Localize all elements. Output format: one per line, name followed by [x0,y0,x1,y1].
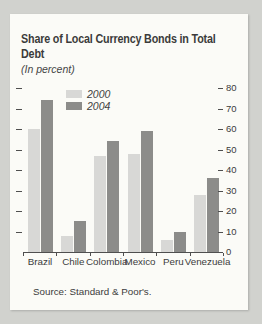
bar-peru-2000 [161,240,173,252]
bar-colombia-2000 [94,156,106,252]
y-axis-label: 80 [226,83,237,93]
y-axis-tick-left [16,170,22,171]
bar-venezuela-2004 [207,178,219,252]
page-background: { "page": { "background_color": "#d1d2ce… [0,0,262,324]
bar-mexico-2000 [128,154,140,252]
y-axis-tick-left [16,191,22,192]
y-axis-tick-left [16,150,22,151]
y-axis-tick-left [16,129,22,130]
chart-card: Share of Local Currency Bonds in Total D… [10,14,248,310]
x-axis-label: Venezuela [185,256,229,267]
y-axis-label: 40 [226,165,237,175]
y-axis-label: 10 [226,227,237,237]
chart-title: Share of Local Currency Bonds in Total D… [21,32,247,61]
plot-area: 01020304050607080BrazilChileColombiaMexi… [23,88,223,253]
source-note: Source: Standard & Poor's. [33,286,151,297]
bar-mexico-2004 [141,131,153,252]
y-axis-label: 70 [226,104,237,114]
bar-brazil-2004 [41,100,53,252]
y-axis-tick-right [218,211,223,212]
y-axis-tick-right [218,88,223,89]
y-axis-label: 60 [226,124,237,134]
bar-venezuela-2000 [194,195,206,252]
bar-colombia-2004 [107,141,119,252]
y-axis-tick-left [16,109,22,110]
bar-peru-2004 [174,232,186,253]
y-axis-tick-left [16,88,22,89]
bar-chile-2004 [74,221,86,252]
y-axis-label: 30 [226,186,237,196]
chart-title-line2: Debt [21,47,216,62]
y-axis-label: 20 [226,206,237,216]
bar-brazil-2000 [28,129,40,252]
chart-subtitle: (In percent) [21,63,75,75]
y-axis-label: 50 [226,145,237,155]
y-axis-tick-left [16,232,22,233]
bar-chile-2000 [61,236,73,252]
y-axis-tick-right [218,191,223,192]
y-axis-tick-right [218,109,223,110]
y-axis-tick-right [218,170,223,171]
y-axis-tick-right [218,129,223,130]
y-axis-tick-right [218,150,223,151]
y-axis-tick-right [218,232,223,233]
y-axis-tick-left [16,211,22,212]
chart-title-line1: Share of Local Currency Bonds in Total [21,32,216,47]
